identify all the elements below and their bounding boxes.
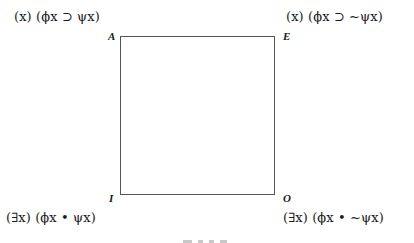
corner-label-a: A: [108, 31, 115, 42]
formula-a: (x) (ϕx ⊃ ψx): [14, 10, 100, 23]
corner-label-e: E: [283, 31, 290, 42]
corner-label-i: I: [109, 193, 113, 204]
formula-i: (∃x) (ϕx • ψx): [6, 211, 96, 224]
formula-e: (x) (ϕx ⊃ ~ψx): [286, 10, 383, 23]
opposition-square: [120, 36, 275, 195]
formula-o: (∃x) (ϕx • ~ψx): [283, 211, 384, 224]
corner-label-o: O: [283, 193, 291, 204]
